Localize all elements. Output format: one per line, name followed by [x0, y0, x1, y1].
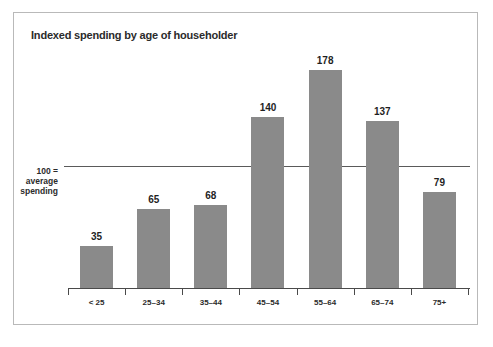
reference-label-line-1: 100 = [20, 166, 58, 176]
bar [80, 246, 113, 289]
x-axis-tick [68, 289, 69, 295]
bar-group: 35 [68, 43, 125, 289]
bar [194, 205, 227, 289]
bar-group: 65 [125, 43, 182, 289]
x-axis-tick [411, 289, 412, 295]
x-axis-category-label: 45–54 [239, 298, 296, 307]
bar-series: 35656814017813779 [68, 43, 468, 289]
chart-title: Indexed spending by age of householder [31, 29, 237, 41]
bar [137, 209, 170, 289]
reference-label-line-2: average [20, 176, 58, 186]
reference-label-line-3: spending [20, 186, 58, 196]
x-axis-tick [125, 289, 126, 295]
chart-card: Indexed spending by age of householder 1… [13, 12, 478, 325]
x-axis-category-labels: < 2525–3435–4445–5455–6465–7475+ [68, 298, 468, 307]
bar-value-label: 140 [239, 102, 296, 113]
x-axis-category-label: 75+ [411, 298, 468, 307]
bar-value-label: 68 [182, 190, 239, 201]
bar-value-label: 137 [354, 106, 411, 117]
x-axis-tick [182, 289, 183, 295]
bar-group: 178 [297, 43, 354, 289]
plot-area: 100 = average spending 35656814017813779 [68, 43, 468, 289]
x-axis-category-label: 65–74 [354, 298, 411, 307]
bar-value-label: 35 [68, 231, 125, 242]
bar-value-label: 65 [125, 194, 182, 205]
bar [251, 117, 284, 289]
x-axis-tick [297, 289, 298, 295]
bar [309, 70, 342, 289]
bar-group: 140 [239, 43, 296, 289]
x-axis-tick [468, 289, 469, 295]
bar [366, 121, 399, 290]
x-axis-ticks [68, 289, 468, 295]
bar-group: 68 [182, 43, 239, 289]
x-axis-category-label: < 25 [68, 298, 125, 307]
x-axis-tick [239, 289, 240, 295]
x-axis-tick [354, 289, 355, 295]
x-axis-category-label: 25–34 [125, 298, 182, 307]
bar-value-label: 79 [411, 177, 468, 188]
bar-value-label: 178 [297, 55, 354, 66]
x-axis-category-label: 55–64 [297, 298, 354, 307]
bar-group: 137 [354, 43, 411, 289]
bar [423, 192, 456, 289]
bar-group: 79 [411, 43, 468, 289]
reference-line-label: 100 = average spending [20, 166, 58, 196]
x-axis-category-label: 35–44 [182, 298, 239, 307]
